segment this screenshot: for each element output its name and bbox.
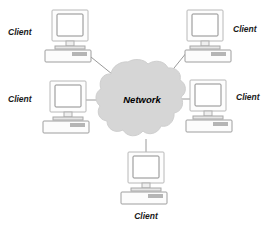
- desktop-computer-icon: [185, 10, 231, 62]
- client-label-middle-left: Client: [8, 94, 33, 104]
- desktop-computer-icon: [45, 10, 91, 62]
- diagram-canvas: Network Client Clien: [0, 0, 274, 226]
- node-client-middle-right[interactable]: Client: [186, 80, 261, 132]
- client-label-middle-right: Client: [236, 92, 261, 102]
- node-client-middle-left[interactable]: Client: [8, 81, 89, 133]
- network-label: Network: [123, 94, 161, 105]
- network-cloud: Network: [96, 60, 185, 136]
- node-client-bottom[interactable]: Client: [121, 152, 167, 221]
- desktop-computer-icon: [121, 152, 167, 204]
- network-diagram: Network Client Clien: [0, 0, 274, 226]
- client-label-top-right: Client: [233, 24, 258, 34]
- client-label-bottom: Client: [134, 211, 159, 221]
- desktop-computer-icon: [186, 80, 232, 132]
- node-client-top-right[interactable]: Client: [185, 10, 258, 62]
- desktop-computer-icon: [43, 81, 89, 133]
- node-client-top-left[interactable]: Client: [8, 10, 91, 62]
- client-label-top-left: Client: [8, 27, 33, 37]
